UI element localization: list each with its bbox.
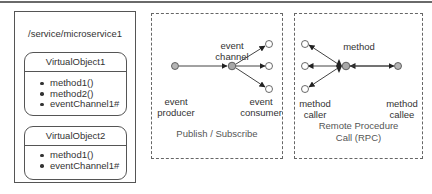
- virtual-object-2: VirtualObject2 method1() eventChannel1#: [24, 126, 127, 180]
- virtual-object-1: VirtualObject1 method1() method2() event…: [24, 52, 127, 116]
- method-to-caller-3-arrow: [309, 68, 338, 87]
- service-path-label: /service/microservice1: [15, 28, 135, 39]
- caller-node-3: [302, 86, 309, 93]
- producer-node: [172, 63, 179, 70]
- method-node: [342, 62, 350, 70]
- architecture-diagram: /service/microservice1 VirtualObject1 me…: [0, 0, 432, 194]
- virtual-object-1-members: method1() method2() eventChannel1#: [25, 72, 126, 110]
- bullet-icon: [40, 103, 44, 107]
- microservice-box: /service/microservice1 VirtualObject1 me…: [14, 11, 136, 183]
- consumer-node-1: [266, 41, 273, 48]
- method-caller-label: method caller: [295, 98, 335, 120]
- caller-node-1: [302, 41, 309, 48]
- rpc-panel: method method caller method callee Remot…: [294, 13, 423, 159]
- channel-to-consumer-3-arrow: [236, 68, 265, 87]
- method-to-caller-1-arrow: [309, 45, 338, 64]
- pubsub-caption: Publish / Subscribe: [152, 128, 282, 140]
- method-callee-label: method callee: [381, 98, 423, 120]
- event-producer-label: event producer: [154, 96, 198, 118]
- bullet-icon: [40, 164, 44, 168]
- virtual-object-1-title: VirtualObject1: [25, 53, 126, 72]
- event-consumer-label: event consumer: [238, 96, 284, 118]
- pubsub-panel: event channel event producer event consu…: [151, 13, 283, 159]
- caller-node-2: [302, 63, 309, 70]
- rpc-caption: Remote Procedure Call (RPC): [295, 120, 422, 144]
- member-item: eventChannel1#: [39, 99, 126, 110]
- channel-node: [228, 62, 236, 70]
- bullet-icon: [40, 154, 44, 158]
- bullet-icon: [40, 82, 44, 86]
- callee-node: [395, 63, 402, 70]
- virtual-object-2-title: VirtualObject2: [25, 127, 126, 146]
- bullet-icon: [40, 92, 44, 96]
- top-divider: [0, 1, 432, 3]
- method-label: method: [337, 41, 381, 52]
- junction-diamond: [336, 59, 342, 73]
- consumer-node-2: [266, 63, 273, 70]
- event-channel-label: event channel: [210, 40, 254, 62]
- consumer-node-3: [266, 86, 273, 93]
- virtual-object-2-members: method1() eventChannel1#: [25, 146, 126, 171]
- member-item: eventChannel1#: [39, 161, 126, 172]
